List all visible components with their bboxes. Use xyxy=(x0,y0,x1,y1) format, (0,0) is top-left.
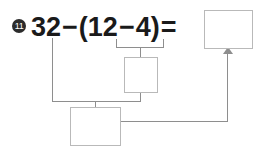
paren-bracket-right-tick xyxy=(163,39,164,48)
equation-token-paren-close: ) xyxy=(151,12,160,43)
equation-token-minuend: 32 xyxy=(31,12,61,43)
equation-token-paren-open: ( xyxy=(79,12,88,43)
answer-box-paren-result[interactable] xyxy=(124,57,158,93)
worksheet-problem-canvas: 11 32 − ( 12 − 4 ) = xyxy=(0,0,267,155)
result-route-vertical xyxy=(227,53,228,122)
answer-box-result[interactable] xyxy=(204,10,253,49)
minuend-drop-line xyxy=(52,38,53,102)
problem-number-marker: 11 xyxy=(12,19,26,33)
answer-box-subtraction-result[interactable] xyxy=(70,107,121,146)
subtraction-join-line xyxy=(52,101,141,102)
equation-token-inner-left: 12 xyxy=(88,12,118,43)
equation-token-equals: = xyxy=(160,12,178,43)
result-route-horizontal xyxy=(121,121,228,122)
equation-token-minus-outer: − xyxy=(61,12,79,43)
equation-token-inner-right: 4 xyxy=(136,12,151,43)
equation-token-minus-inner: − xyxy=(118,12,136,43)
paren-result-down-line xyxy=(140,93,141,102)
